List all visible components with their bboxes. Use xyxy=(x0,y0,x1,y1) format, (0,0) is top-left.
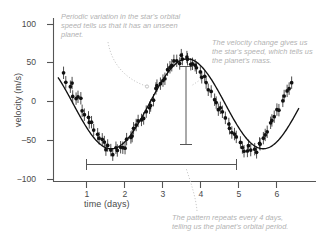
data-point xyxy=(258,142,262,146)
y-axis-title: velocity (m/s) xyxy=(13,60,23,140)
y-tick-label-minus100: −100 xyxy=(6,174,36,184)
data-point xyxy=(186,57,190,61)
annotation-leader-lines xyxy=(108,42,206,211)
data-point xyxy=(106,144,110,148)
data-point xyxy=(239,141,243,145)
data-point xyxy=(272,115,276,119)
data-point xyxy=(204,81,208,85)
data-point xyxy=(70,81,74,85)
data-point xyxy=(221,110,225,114)
data-point xyxy=(83,113,87,117)
data-point xyxy=(195,66,199,70)
x-tick-label-6: 6 xyxy=(270,189,284,199)
amplitude-bar xyxy=(180,66,192,145)
data-point xyxy=(219,106,223,110)
annotation-periodic-variation: Periodic variation in the star's orbital… xyxy=(61,12,185,40)
data-point xyxy=(228,126,232,130)
data-point xyxy=(144,110,148,114)
data-point xyxy=(62,71,66,75)
data-point xyxy=(224,116,228,120)
data-point xyxy=(136,119,140,123)
data-layer xyxy=(58,49,299,161)
data-point xyxy=(92,128,96,132)
data-point xyxy=(270,119,274,123)
data-point xyxy=(263,133,267,137)
x-axis-title: time (days) xyxy=(84,199,130,209)
data-point xyxy=(155,84,159,88)
data-point xyxy=(282,94,286,98)
data-point xyxy=(152,98,156,102)
data-point xyxy=(175,59,179,63)
y-tick-label-100: 100 xyxy=(6,19,36,29)
data-point xyxy=(265,130,269,134)
x-axis-ticks xyxy=(87,182,277,189)
x-tick-label-4: 4 xyxy=(194,189,208,199)
data-point xyxy=(69,85,73,89)
data-point xyxy=(253,147,257,151)
data-point xyxy=(115,149,119,153)
data-point xyxy=(90,120,94,124)
data-point xyxy=(109,148,113,152)
data-point xyxy=(142,117,146,121)
data-point xyxy=(149,104,153,108)
data-point xyxy=(234,135,238,139)
data-point xyxy=(87,116,91,120)
data-point xyxy=(130,134,134,138)
data-point xyxy=(123,146,127,150)
data-point xyxy=(209,90,213,94)
x-tick-label-2: 2 xyxy=(118,189,132,199)
data-point xyxy=(181,57,185,61)
data-point xyxy=(104,148,108,152)
data-point xyxy=(227,122,231,126)
radial-velocity-figure: 100 50 0 ‒50 −100 1 2 3 4 5 6 time (days… xyxy=(0,0,323,246)
data-point xyxy=(178,62,182,66)
annotation-velocity-change: The velocity change gives us the star's … xyxy=(212,38,316,66)
x-tick-label-5: 5 xyxy=(232,189,246,199)
period-bar xyxy=(86,159,237,170)
data-point xyxy=(290,81,294,85)
data-point xyxy=(71,95,75,99)
data-point xyxy=(64,80,68,84)
data-point xyxy=(111,153,115,157)
data-point xyxy=(125,137,129,141)
data-point xyxy=(134,123,138,127)
leader-periodic xyxy=(108,42,146,86)
data-point xyxy=(262,136,266,140)
data-point xyxy=(163,77,167,81)
y-axis-ticks xyxy=(47,25,54,180)
data-point xyxy=(249,148,253,152)
data-point xyxy=(214,101,218,105)
data-point xyxy=(80,109,84,113)
data-point xyxy=(79,96,83,100)
data-point xyxy=(242,149,246,153)
fit-curve xyxy=(58,59,299,149)
x-tick-label-1: 1 xyxy=(80,189,94,199)
data-point xyxy=(97,136,101,140)
data-point xyxy=(159,82,163,86)
x-tick-label-3: 3 xyxy=(156,189,170,199)
data-point xyxy=(247,144,251,148)
annotation-orbital-period: The pattern repeats every 4 days, tellin… xyxy=(172,213,300,231)
data-point xyxy=(103,140,107,144)
data-point xyxy=(277,108,281,112)
leader-periodic-endpoint xyxy=(145,85,148,88)
data-point xyxy=(170,63,174,67)
data-point xyxy=(287,87,291,91)
data-point xyxy=(132,126,136,130)
data-point xyxy=(255,151,259,155)
